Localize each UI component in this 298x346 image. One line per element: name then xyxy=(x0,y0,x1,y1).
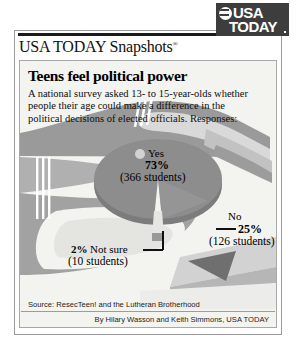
label-no: No xyxy=(228,210,241,222)
source-divider xyxy=(21,311,275,312)
byline: By Hilary Wasson and Keith Simmons, USA … xyxy=(95,315,269,324)
label-yes-count: (366 students) xyxy=(120,171,185,183)
leader-line-notsure-vertical xyxy=(162,231,164,250)
deck-line-3: political decisions of elected officials… xyxy=(28,113,272,125)
logo-today-text: TODAY xyxy=(218,19,288,34)
registered-trademark-symbol: ® xyxy=(173,40,178,48)
deck-paragraph: A national survey asked 13- to 15-year-o… xyxy=(28,88,272,125)
label-notsure-percent: 2% xyxy=(71,243,88,255)
deck-line-1: A national survey asked 13- to 15-year-o… xyxy=(28,88,272,100)
masthead-title-text: USA TODAY Snapshots xyxy=(19,38,173,55)
label-no-count: (126 students) xyxy=(209,235,274,247)
logo-period xyxy=(284,31,286,33)
headline: Teens feel political power xyxy=(28,67,187,85)
source-line: Source: ResecTeen! and the Lutheran Brot… xyxy=(28,300,200,309)
usa-today-snapshot-graphic: USA TODAY USA TODAY Snapshots® xyxy=(0,0,298,346)
masthead-title: USA TODAY Snapshots® xyxy=(19,38,249,56)
content-panel: Teens feel political power A national su… xyxy=(19,60,277,328)
label-notsure: Not sure xyxy=(90,243,128,255)
leader-line-notsure-horizontal xyxy=(143,249,163,251)
leader-line-no xyxy=(216,228,236,230)
usa-today-logo: USA TODAY xyxy=(216,3,289,36)
deck-line-2: people their age could make a difference… xyxy=(28,100,272,112)
label-notsure-count: (10 students) xyxy=(68,255,128,267)
